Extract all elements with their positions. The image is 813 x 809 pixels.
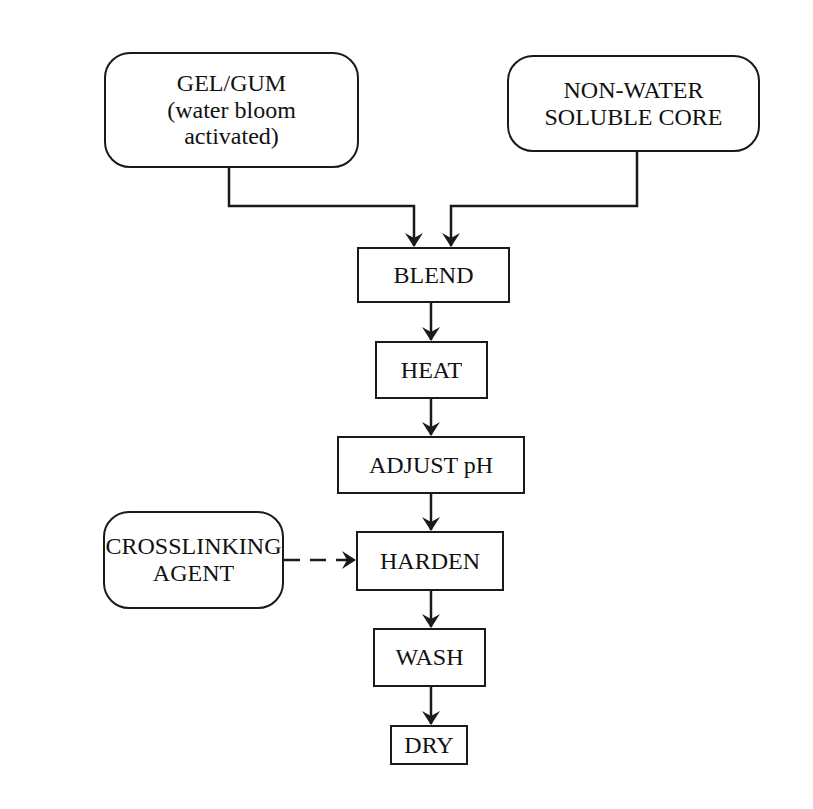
crosslinker-line-1: CROSSLINKING <box>105 533 281 560</box>
input-non-water-soluble-core: NON-WATER SOLUBLE CORE <box>507 55 760 152</box>
heat-label: HEAT <box>401 357 462 384</box>
edge-gel-to-blend <box>229 167 414 246</box>
input-crosslinking-agent: CROSSLINKING AGENT <box>103 511 284 609</box>
step-blend: BLEND <box>357 247 510 303</box>
wash-label: WASH <box>395 644 463 671</box>
core-line-2: SOLUBLE CORE <box>544 104 722 131</box>
gel-gum-line-1: GEL/GUM <box>177 70 286 97</box>
crosslinker-line-2: AGENT <box>153 560 234 587</box>
dry-label: DRY <box>404 732 453 759</box>
harden-label: HARDEN <box>380 548 480 575</box>
gel-gum-line-2: (water bloom <box>167 97 296 124</box>
step-adjust-ph: ADJUST pH <box>337 436 525 494</box>
step-heat: HEAT <box>375 341 488 399</box>
gel-gum-line-3: activated) <box>184 123 279 150</box>
core-line-1: NON-WATER <box>564 77 704 104</box>
blend-label: BLEND <box>394 262 474 289</box>
step-harden: HARDEN <box>356 531 504 591</box>
edge-core-to-blend <box>451 151 637 246</box>
input-gel-gum: GEL/GUM (water bloom activated) <box>104 52 359 168</box>
step-wash: WASH <box>373 628 486 687</box>
adjust-ph-label: ADJUST pH <box>369 452 493 479</box>
step-dry: DRY <box>390 725 468 765</box>
